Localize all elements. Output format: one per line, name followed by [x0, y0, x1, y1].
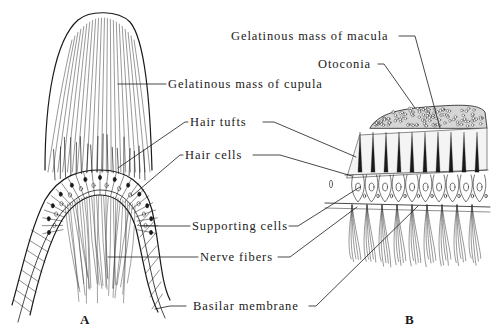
hair-cell-nucleus — [98, 175, 101, 179]
otoconium — [471, 124, 474, 127]
diagram-drawing — [0, 0, 501, 330]
otoconium — [439, 109, 442, 112]
cupula-striation — [110, 19, 111, 172]
arch-cell-wall — [24, 260, 42, 272]
otoconium — [461, 109, 464, 112]
otoconium — [479, 122, 482, 125]
cupula-striation — [134, 40, 150, 172]
arch-cell-wall — [69, 179, 80, 200]
arch-cell-wall — [27, 250, 46, 262]
otoconium — [438, 119, 441, 122]
leader-hair-tufts-b — [263, 122, 356, 157]
hair-cell — [379, 175, 392, 202]
label-hair-tufts: Hair tufts — [190, 116, 247, 129]
leader-basilar-b — [309, 206, 418, 306]
label-supporting-cells: Supporting cells — [192, 220, 288, 233]
panel-label-b: B — [405, 312, 414, 328]
otoconium — [473, 109, 476, 112]
arch-cell-wall — [146, 258, 158, 273]
cupula-striation — [122, 26, 130, 172]
leader-nerve-b — [278, 207, 357, 257]
hair-cell-nucleus — [84, 177, 87, 181]
cell-nucleus — [410, 183, 415, 191]
otoconium — [457, 123, 460, 126]
supporting-cell-nucleus — [485, 194, 487, 198]
otoconium — [462, 114, 465, 117]
nerve-fiber — [382, 205, 391, 267]
otoconium — [422, 113, 425, 116]
otoconium — [375, 122, 378, 125]
hair-cell-nucleus — [47, 230, 50, 234]
macula-cells — [330, 170, 489, 202]
hair-cell-nucleus — [51, 203, 54, 207]
basilar-membrane-b — [325, 203, 490, 207]
otoconium — [444, 122, 447, 125]
hair-cell — [406, 175, 419, 202]
panel-label-a: A — [80, 312, 89, 328]
arch-cell-wall — [129, 189, 144, 205]
otoconium — [424, 117, 427, 120]
macula-nerve-fibers — [349, 205, 481, 267]
arch-cell-wall — [120, 179, 131, 200]
otoconium — [453, 118, 456, 121]
otoconium — [465, 110, 468, 113]
cell-nucleus — [464, 183, 469, 191]
hair-cell — [460, 175, 473, 202]
otoconium — [394, 114, 397, 117]
cell-nucleus — [437, 183, 442, 191]
supporting-cell-nucleus — [431, 194, 433, 198]
otoconium — [387, 117, 390, 120]
otoconium — [445, 114, 448, 117]
hair-cell-nucleus — [70, 183, 73, 187]
cupula-striation — [113, 20, 116, 172]
arch-cell-wall — [43, 230, 63, 234]
supporting-cell-nucleus — [363, 194, 365, 198]
otoconium — [471, 120, 474, 123]
otoconium — [394, 120, 397, 123]
hair-cell-nucleus — [149, 230, 152, 234]
otoconium — [471, 113, 474, 116]
nerve-fiber — [92, 196, 102, 289]
hair-cell — [473, 175, 486, 202]
label-gelatinous-mass-macula: Gelatinous mass of macula — [231, 30, 389, 43]
hair-tuft — [139, 146, 140, 178]
label-gelatinous-mass-cupula: Gelatinous mass of cupula — [168, 78, 323, 91]
arch-nerve-fibers — [65, 195, 135, 303]
otoconium — [409, 110, 412, 113]
arch-cell-wall — [142, 234, 155, 249]
otoconium — [443, 113, 446, 116]
nerve-fiber — [106, 196, 108, 278]
hair-tuft — [64, 137, 65, 177]
otoconium — [428, 108, 431, 111]
otoconium — [456, 121, 459, 124]
label-otoconia: Otoconia — [318, 58, 371, 71]
cupula-striation — [72, 24, 86, 172]
arch-hair-tufts — [54, 134, 145, 180]
otoconium — [427, 112, 430, 115]
otoconium — [380, 120, 383, 123]
hair-cell — [392, 175, 405, 202]
otoconium — [421, 119, 424, 122]
hair-tuft — [91, 145, 92, 172]
otoconium — [425, 110, 428, 113]
otoconium — [410, 113, 413, 116]
cell-nucleus — [423, 183, 428, 191]
cupula-striation — [63, 29, 81, 172]
hair-cell-nucleus — [59, 192, 62, 196]
otoconium — [466, 125, 469, 128]
nerve-fiber — [109, 196, 111, 295]
otoconium — [472, 117, 475, 120]
otoconium — [432, 124, 435, 127]
otoconium — [392, 111, 395, 114]
otoconium — [428, 116, 431, 119]
arch-cell-wall — [105, 171, 108, 196]
cell-nucleus — [450, 183, 455, 191]
arch-cell-wall — [29, 240, 48, 252]
cupula-striation — [53, 36, 75, 172]
otoconium — [396, 117, 399, 120]
cell-nucleus — [383, 183, 388, 191]
hair-cell-nucleus — [127, 183, 130, 187]
otoconium — [461, 119, 464, 122]
supporting-cell-nucleus — [471, 194, 473, 198]
otoconium — [383, 119, 386, 122]
